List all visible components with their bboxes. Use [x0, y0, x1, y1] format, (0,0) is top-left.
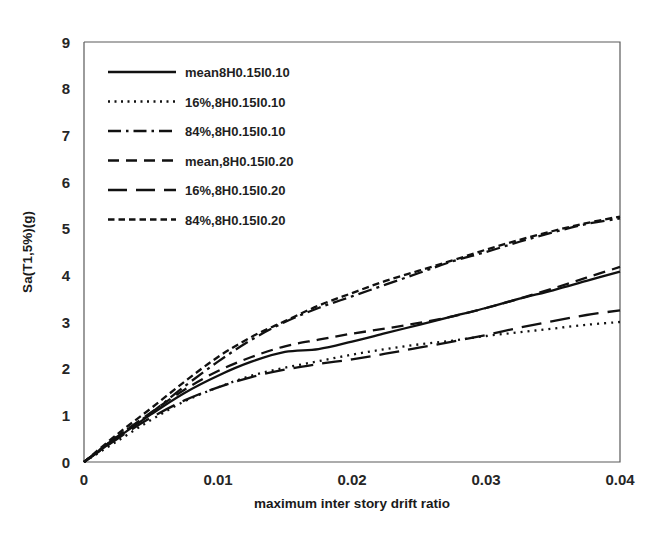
y-tick-label: 8	[62, 80, 70, 97]
y-tick-label: 2	[62, 360, 70, 377]
y-axis-title: Sa(T1,5%)(g)	[20, 211, 35, 293]
legend-label: 16%,8H0.15I0.10	[185, 95, 285, 110]
y-tick-label: 3	[62, 314, 70, 331]
ida-curves-chart: 0123456789 00.010.020.030.04 Sa(T1,5%)(g…	[0, 0, 661, 540]
x-tick-label: 0.01	[203, 471, 232, 488]
chart-background	[0, 0, 661, 540]
y-tick-label: 9	[62, 34, 70, 51]
legend-label: 84%,8H0.15I0.10	[185, 124, 285, 139]
y-tick-label: 6	[62, 174, 70, 191]
x-tick-label: 0.04	[605, 471, 635, 488]
legend-label: 16%,8H0.15I0.20	[185, 183, 285, 198]
legend-label: 84%,8H0.15I0.20	[185, 213, 285, 228]
legend-label: mean,8H0.15I0.20	[185, 154, 293, 169]
y-tick-label: 5	[62, 220, 70, 237]
legend-label: mean8H0.15I0.10	[185, 65, 290, 80]
x-tick-label: 0.02	[337, 471, 366, 488]
y-tick-label: 1	[62, 407, 70, 424]
x-axis-title: maximum inter story drift ratio	[254, 496, 450, 511]
x-tick-label: 0	[80, 471, 88, 488]
y-tick-label: 0	[62, 454, 70, 471]
x-tick-label: 0.03	[471, 471, 500, 488]
y-tick-label: 7	[62, 127, 70, 144]
y-tick-label: 4	[62, 267, 71, 284]
